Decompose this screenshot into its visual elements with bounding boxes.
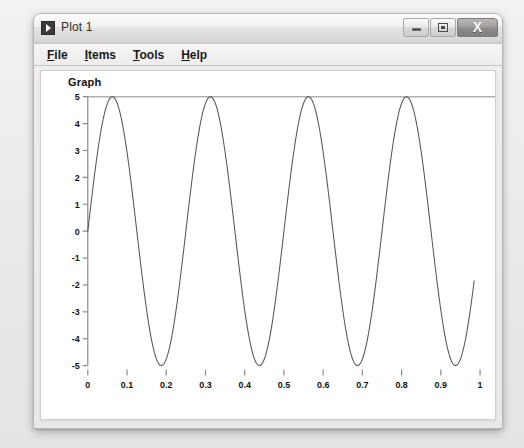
window-titlebar[interactable]: Plot 1 X: [34, 14, 502, 44]
minimize-button[interactable]: [403, 18, 429, 37]
close-icon: X: [473, 20, 482, 34]
play-triangle-glyph: [46, 24, 51, 32]
menu-items[interactable]: Items: [77, 46, 125, 64]
plot-panel[interactable]: Graph 543210-1-2-3-4-500.10.20.30.40.50.…: [40, 70, 496, 420]
svg-text:5: 5: [75, 92, 80, 102]
menu-file-label: ile: [54, 48, 67, 62]
menu-help[interactable]: Help: [173, 46, 216, 64]
restore-button[interactable]: [430, 18, 456, 37]
close-button[interactable]: X: [457, 18, 498, 37]
svg-text:0.8: 0.8: [395, 380, 407, 390]
svg-text:4: 4: [75, 119, 80, 129]
svg-text:-1: -1: [72, 253, 80, 263]
svg-text:0: 0: [85, 380, 90, 390]
svg-text:0.9: 0.9: [435, 380, 447, 390]
menubar: File Items Tools Help: [34, 44, 502, 66]
window-controls: X: [402, 16, 498, 38]
svg-text:3: 3: [75, 146, 80, 156]
minimize-icon: [412, 28, 421, 31]
restore-icon: [438, 23, 448, 32]
menu-tools-label: ools: [140, 48, 165, 62]
menu-items-label: tems: [88, 48, 116, 62]
menu-help-mnemonic: H: [181, 48, 190, 62]
menu-tools[interactable]: Tools: [125, 46, 173, 64]
svg-text:-3: -3: [72, 307, 80, 317]
svg-text:-5: -5: [72, 361, 80, 371]
svg-text:0.3: 0.3: [199, 380, 211, 390]
svg-text:-2: -2: [72, 280, 80, 290]
plot-app-icon: [41, 21, 55, 35]
plot-window: Plot 1 X File Items Tools Help Graph 543…: [33, 13, 503, 429]
svg-text:0.6: 0.6: [317, 380, 329, 390]
client-area: Graph 543210-1-2-3-4-500.10.20.30.40.50.…: [34, 66, 502, 428]
svg-text:0.2: 0.2: [160, 380, 172, 390]
svg-text:1: 1: [478, 380, 483, 390]
svg-text:1: 1: [75, 200, 80, 210]
svg-text:0: 0: [75, 227, 80, 237]
menu-help-label: elp: [190, 48, 207, 62]
svg-text:2: 2: [75, 173, 80, 183]
menu-file[interactable]: File: [39, 46, 77, 64]
svg-text:-4: -4: [72, 334, 80, 344]
svg-text:0.4: 0.4: [238, 380, 250, 390]
window-title: Plot 1: [61, 20, 93, 34]
svg-text:0.5: 0.5: [278, 380, 290, 390]
svg-text:0.7: 0.7: [356, 380, 368, 390]
svg-text:0.1: 0.1: [121, 380, 133, 390]
chart-canvas: 543210-1-2-3-4-500.10.20.30.40.50.60.70.…: [41, 71, 495, 419]
